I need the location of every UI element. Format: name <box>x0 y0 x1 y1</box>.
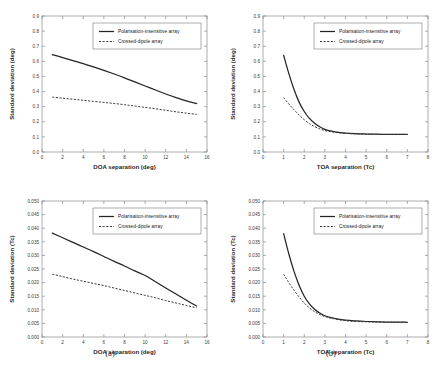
x-tick-label: 0 <box>41 340 44 345</box>
x-tick-label: 3 <box>324 340 327 345</box>
y-tick-label: 0.2 <box>33 119 40 124</box>
subfigure-caption-b: (b) <box>221 348 441 358</box>
y-tick-label: 0.5 <box>254 74 261 79</box>
legend-label-solid: Polarisation-insensitive array <box>339 29 401 34</box>
y-tick-label: 0.3 <box>254 104 261 109</box>
y-tick-label: 0.010 <box>28 308 40 313</box>
y-tick-label: 0.050 <box>28 199 40 204</box>
y-tick-label: 0.040 <box>28 226 40 231</box>
x-tick-label: 12 <box>163 155 169 160</box>
x-tick-label: 14 <box>184 340 190 345</box>
y-tick-label: 0.005 <box>249 321 261 326</box>
y-tick-label: 0.010 <box>249 308 261 313</box>
y-tick-label: 0.015 <box>249 294 261 299</box>
x-tick-label: 16 <box>204 155 210 160</box>
y-tick-label: 0.1 <box>254 135 261 140</box>
y-tick-label: 0.3 <box>33 104 40 109</box>
legend: Polarisation-insensitive arrayCrossed-di… <box>314 23 422 49</box>
x-tick-label: 8 <box>427 340 430 345</box>
x-axis-title: DOA separation (deg) <box>93 163 155 170</box>
x-tick-label: 1 <box>282 340 285 345</box>
x-tick-label: 2 <box>61 155 64 160</box>
legend: Polarisation-insensitive arrayCrossed-di… <box>93 208 201 234</box>
y-axis-title: Standard deviation (deg) <box>8 48 15 119</box>
y-tick-label: 0.025 <box>28 267 40 272</box>
y-tick-label: 0.0 <box>33 150 40 155</box>
subfigure-caption-a: (a) <box>0 348 220 358</box>
legend-box <box>93 23 201 49</box>
y-tick-label: 0.7 <box>33 44 40 49</box>
x-tick-label: 7 <box>406 340 409 345</box>
y-tick-label: 0.025 <box>249 267 261 272</box>
x-tick-label: 8 <box>427 155 430 160</box>
y-tick-label: 0.6 <box>33 59 40 64</box>
y-tick-label: 0.020 <box>249 280 261 285</box>
x-tick-label: 1 <box>282 155 285 160</box>
legend-box <box>93 208 201 234</box>
y-tick-label: 0.015 <box>28 294 40 299</box>
y-tick-label: 0.030 <box>28 253 40 258</box>
x-tick-label: 6 <box>385 155 388 160</box>
x-tick-label: 4 <box>82 155 85 160</box>
x-tick-label: 7 <box>406 155 409 160</box>
y-tick-label: 0.000 <box>249 335 261 340</box>
y-tick-label: 0.035 <box>249 240 261 245</box>
x-tick-label: 16 <box>204 340 210 345</box>
x-tick-label: 8 <box>123 340 126 345</box>
x-tick-label: 8 <box>123 155 126 160</box>
y-tick-label: 0.040 <box>249 226 261 231</box>
legend-box <box>314 23 422 49</box>
y-tick-label: 0.7 <box>254 44 261 49</box>
y-tick-label: 0.9 <box>33 14 40 19</box>
y-tick-label: 0.0 <box>254 150 261 155</box>
x-tick-label: 4 <box>344 340 347 345</box>
y-tick-label: 0.2 <box>254 119 261 124</box>
x-tick-label: 2 <box>303 155 306 160</box>
x-tick-label: 14 <box>184 155 190 160</box>
y-tick-label: 0.8 <box>254 29 261 34</box>
plot-top-right: 0123456780.00.10.20.30.40.50.60.70.80.9T… <box>221 0 441 185</box>
y-tick-label: 0.050 <box>249 199 261 204</box>
y-tick-label: 0.9 <box>254 14 261 19</box>
x-tick-label: 10 <box>143 340 149 345</box>
figure-container: 02468101214160.00.10.20.30.40.50.60.70.8… <box>0 0 441 370</box>
x-tick-label: 6 <box>103 340 106 345</box>
x-tick-label: 0 <box>41 155 44 160</box>
legend-label-dashed: Crossed-dipole array <box>339 39 384 44</box>
plot-top-left: 02468101214160.00.10.20.30.40.50.60.70.8… <box>0 0 220 185</box>
x-tick-label: 5 <box>365 340 368 345</box>
x-tick-label: 2 <box>303 340 306 345</box>
y-tick-label: 0.1 <box>33 135 40 140</box>
legend-label-solid: Polarisation-insensitive array <box>118 214 180 219</box>
x-tick-label: 10 <box>143 155 149 160</box>
legend-label-solid: Polarisation-insensitive array <box>118 29 180 34</box>
x-tick-label: 0 <box>262 155 265 160</box>
x-tick-label: 2 <box>61 340 64 345</box>
legend: Polarisation-insensitive arrayCrossed-di… <box>314 208 422 234</box>
legend-label-dashed: Crossed-dipole array <box>118 39 163 44</box>
x-tick-label: 12 <box>163 340 169 345</box>
x-tick-label: 3 <box>324 155 327 160</box>
y-axis-title: Standard deviation (Tc) <box>229 235 236 302</box>
y-tick-label: 0.030 <box>249 253 261 258</box>
x-tick-label: 4 <box>344 155 347 160</box>
y-tick-label: 0.005 <box>28 321 40 326</box>
x-tick-label: 6 <box>385 340 388 345</box>
y-tick-label: 0.035 <box>28 240 40 245</box>
y-tick-label: 0.000 <box>28 335 40 340</box>
y-tick-label: 0.5 <box>33 74 40 79</box>
y-axis-title: Standard deviation (Tc) <box>8 235 15 302</box>
plot-bottom-left: 02468101214160.0000.0050.0100.0150.0200.… <box>0 185 220 370</box>
y-tick-label: 0.045 <box>28 212 40 217</box>
y-tick-label: 0.020 <box>28 280 40 285</box>
chart-panel-top-right: 0123456780.00.10.20.30.40.50.60.70.80.9T… <box>221 0 441 185</box>
y-tick-label: 0.6 <box>254 59 261 64</box>
legend-label-solid: Polarisation-insensitive array <box>339 214 401 219</box>
y-tick-label: 0.4 <box>254 89 261 94</box>
x-tick-label: 6 <box>103 155 106 160</box>
legend-box <box>314 208 422 234</box>
chart-panel-bottom-left: 02468101214160.0000.0050.0100.0150.0200.… <box>0 185 220 370</box>
x-axis-title: TOA separation (Tc) <box>317 163 374 170</box>
chart-panel-bottom-right: 0123456780.0000.0050.0100.0150.0200.0250… <box>221 185 441 370</box>
x-tick-label: 5 <box>365 155 368 160</box>
